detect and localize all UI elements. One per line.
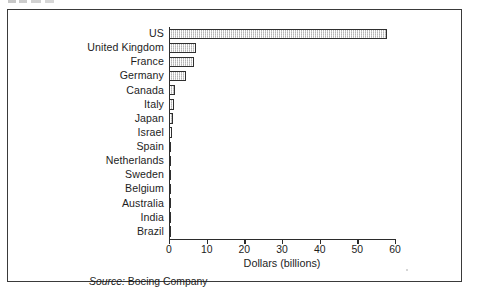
- x-tick: [169, 239, 170, 244]
- x-tick: [357, 239, 358, 244]
- category-label: India: [141, 210, 164, 224]
- bar: [169, 226, 171, 236]
- x-tick: [395, 239, 396, 244]
- scan-speck: [406, 269, 408, 271]
- category-label: Italy: [144, 97, 164, 111]
- bar: [169, 127, 172, 137]
- bar-row: Japan: [169, 112, 395, 126]
- category-label: US: [149, 26, 164, 40]
- bar-row: Canada: [169, 84, 395, 98]
- plot-area: USUnited KingdomFranceGermanyCanadaItaly…: [169, 27, 395, 239]
- x-tick: [282, 239, 283, 244]
- x-tick-label: 50: [352, 244, 364, 255]
- bar-row: Israel: [169, 126, 395, 140]
- x-tick: [244, 239, 245, 244]
- x-tick: [320, 239, 321, 244]
- bar-row: Germany: [169, 69, 395, 83]
- source-value: Boeing Company: [125, 276, 208, 287]
- x-tick-label: 20: [239, 244, 251, 255]
- bar: [169, 198, 171, 208]
- page-edge-artifact: [8, 0, 68, 3]
- category-label: Germany: [120, 68, 164, 82]
- source-note: Source: Boeing Company: [89, 276, 207, 287]
- category-label: Israel: [137, 125, 164, 139]
- bar: [169, 184, 171, 194]
- category-label: Belgium: [125, 181, 164, 195]
- bar: [169, 71, 186, 81]
- bar-row: France: [169, 55, 395, 69]
- x-tick-label: 60: [389, 244, 401, 255]
- category-label: Japan: [135, 111, 164, 125]
- bar-row: United Kingdom: [169, 41, 395, 55]
- x-tick-label: 0: [166, 244, 172, 255]
- bar: [169, 212, 171, 222]
- bar: [169, 113, 173, 123]
- category-label: United Kingdom: [87, 40, 164, 54]
- bar-row: US: [169, 27, 395, 41]
- x-tick-label: 40: [314, 244, 326, 255]
- bar: [169, 170, 171, 180]
- bar-row: Brazil: [169, 225, 395, 239]
- category-label: Spain: [136, 139, 164, 153]
- bar: [169, 43, 196, 53]
- category-label: Netherlands: [106, 153, 164, 167]
- bar-rows: USUnited KingdomFranceGermanyCanadaItaly…: [169, 27, 395, 239]
- bar-row: Spain: [169, 140, 395, 154]
- x-tick-label: 30: [276, 244, 288, 255]
- category-label: Canada: [126, 83, 164, 97]
- category-label: Sweden: [125, 167, 164, 181]
- x-tick: [207, 239, 208, 244]
- bar: [169, 99, 174, 109]
- bar: [169, 57, 194, 67]
- bar: [169, 29, 387, 39]
- x-axis-label: Dollars (billions): [169, 257, 395, 269]
- bar-row: Netherlands: [169, 154, 395, 168]
- chart-figure: USUnited KingdomFranceGermanyCanadaItaly…: [0, 0, 478, 297]
- source-label: Source:: [89, 276, 125, 287]
- bar: [169, 85, 175, 95]
- category-label: Brazil: [137, 224, 164, 238]
- category-label: Australia: [122, 196, 164, 210]
- bar-row: India: [169, 211, 395, 225]
- x-tick-label: 10: [201, 244, 213, 255]
- bar-row: Belgium: [169, 182, 395, 196]
- bar-row: Sweden: [169, 168, 395, 182]
- chart-frame: USUnited KingdomFranceGermanyCanadaItaly…: [7, 9, 462, 282]
- category-label: France: [130, 54, 164, 68]
- bar: [169, 156, 171, 166]
- bar-row: Australia: [169, 197, 395, 211]
- bar: [169, 142, 171, 152]
- bar-row: Italy: [169, 98, 395, 112]
